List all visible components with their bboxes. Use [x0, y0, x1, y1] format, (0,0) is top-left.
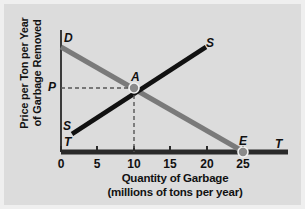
x-axis-label-sub: (millions of tons per year): [107, 186, 242, 198]
chart-figure: Price per Ton per Year of Garbage Remove…: [0, 0, 305, 209]
x-tick-label-10: 10: [123, 157, 145, 171]
x-tick-label-0: 0: [50, 157, 72, 171]
supply-origin-label: S: [63, 119, 71, 133]
t-axis-left-label: T: [64, 135, 71, 149]
t-axis-right-label: T: [275, 137, 282, 151]
x-tick-label-15: 15: [159, 157, 181, 171]
intersection-label: E: [239, 134, 247, 148]
x-tick-label-20: 20: [196, 157, 218, 171]
point-a-marker: [129, 83, 139, 93]
supply-top-label: S: [206, 36, 214, 50]
x-axis-label: Quantity of Garbage (millions of tons pe…: [60, 172, 290, 199]
point-e-marker: [238, 147, 248, 157]
x-tick-label-5: 5: [86, 157, 108, 171]
equilibrium-label: A: [131, 70, 140, 84]
demand-curve: [61, 47, 244, 152]
price-axis-label: P: [48, 80, 56, 94]
demand-curve-label: D: [64, 31, 73, 45]
x-axis-label-main: Quantity of Garbage: [122, 172, 229, 184]
x-tick-label-25: 25: [232, 157, 254, 171]
